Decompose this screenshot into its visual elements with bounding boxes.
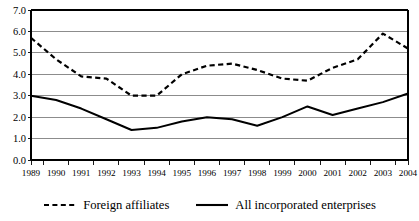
x-axis-tick-label: 1997 bbox=[223, 168, 242, 178]
x-axis-tick-label: 1992 bbox=[97, 168, 116, 178]
plot-frame bbox=[31, 10, 408, 160]
y-axis-tick-label: 2.0 bbox=[13, 112, 26, 123]
x-axis-tick-label: 2004 bbox=[399, 168, 418, 178]
y-axis-tick-label: 5.0 bbox=[13, 47, 26, 58]
y-axis-tick-label: 3.0 bbox=[13, 90, 26, 101]
x-axis-tick-label: 2000 bbox=[298, 168, 317, 178]
y-axis-tick-label: 7.0 bbox=[13, 5, 26, 16]
x-axis-tick-label: 1990 bbox=[47, 168, 66, 178]
x-axis-tick-label: 2002 bbox=[349, 168, 368, 178]
data-series bbox=[31, 34, 408, 130]
x-axis-tick-label: 2001 bbox=[323, 168, 342, 178]
x-axis-tick-label: 1989 bbox=[22, 168, 41, 178]
legend-swatch-dashed-icon bbox=[43, 200, 77, 210]
plot-area: 0.01.02.03.04.05.06.07.0 198919901991199… bbox=[0, 0, 419, 190]
gridlines bbox=[28, 10, 408, 160]
x-axis-tick-label: 1998 bbox=[248, 168, 267, 178]
x-axis-tick-label: 1996 bbox=[198, 168, 217, 178]
legend-label-all-incorporated-enterprises: All incorporated enterprises bbox=[235, 199, 376, 212]
line-chart-figure: 0.01.02.03.04.05.06.07.0 198919901991199… bbox=[0, 0, 419, 221]
x-axis-tick-label: 1999 bbox=[273, 168, 292, 178]
legend-swatch-solid-icon bbox=[195, 200, 229, 210]
y-axis-tick-label: 6.0 bbox=[13, 26, 26, 37]
x-axis-tick-label: 1993 bbox=[122, 168, 141, 178]
x-axis-tick-label: 1995 bbox=[173, 168, 192, 178]
x-axis-tick-label: 2003 bbox=[374, 168, 393, 178]
series-line-foreign-affiliates bbox=[31, 34, 408, 96]
x-axis-tick-label: 1991 bbox=[72, 168, 91, 178]
x-axis-tick-labels: 1989199019911992199319941995199619971998… bbox=[22, 168, 418, 178]
series-line-all-incorporated-enterprises bbox=[31, 94, 408, 130]
legend-label-foreign-affiliates: Foreign affiliates bbox=[83, 199, 169, 212]
y-axis-tick-label: 0.0 bbox=[13, 155, 26, 166]
legend-item-all-incorporated-enterprises: All incorporated enterprises bbox=[195, 199, 376, 212]
y-axis-tick-label: 1.0 bbox=[13, 133, 26, 144]
x-axis-ticks bbox=[31, 160, 408, 165]
y-axis-tick-labels: 0.01.02.03.04.05.06.07.0 bbox=[13, 5, 26, 166]
x-axis-tick-label: 1994 bbox=[147, 168, 166, 178]
chart-canvas: 0.01.02.03.04.05.06.07.0 198919901991199… bbox=[0, 0, 419, 190]
y-axis-tick-label: 4.0 bbox=[13, 69, 26, 80]
chart-legend: Foreign affiliates All incorporated ente… bbox=[0, 189, 419, 221]
legend-item-foreign-affiliates: Foreign affiliates bbox=[43, 199, 169, 212]
